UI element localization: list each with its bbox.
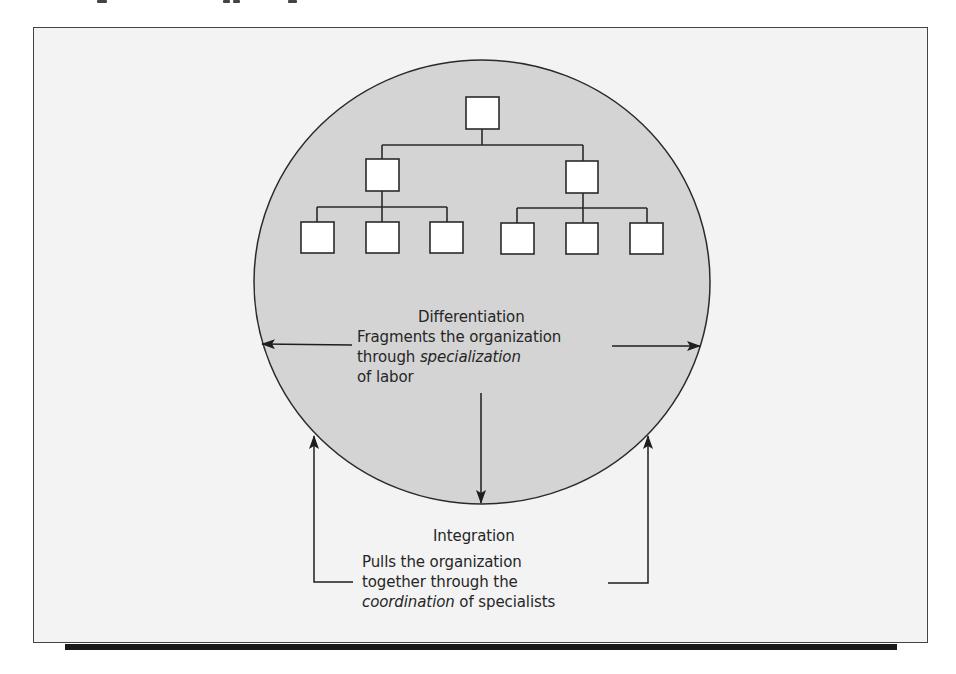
differentiation-line-1: Fragments the organization [357,327,561,347]
integration-line-1: Pulls the organization [362,552,522,572]
org-box-top [466,97,499,129]
integration-title: Integration [433,526,515,546]
integration-line-3: coordination of specialists [362,592,555,612]
org-box-bottom-1 [301,222,334,253]
org-box-middle-right [566,161,598,193]
coordination-emphasis: coordination [362,593,455,611]
differentiation-title: Differentiation [418,307,525,327]
org-box-bottom-2 [366,222,399,253]
org-box-bottom-4 [501,223,534,254]
org-box-bottom-5 [566,223,598,254]
integration-line-3-suffix: of specialists [455,593,556,611]
org-box-bottom-6 [630,223,663,254]
differentiation-line-3: of labor [357,367,414,387]
org-box-middle-left [366,159,399,191]
integration-line-2: together through the [362,572,518,592]
org-box-bottom-3 [430,222,463,253]
differentiation-line-2: through specialization [357,347,521,367]
arrow-left [262,344,352,345]
differentiation-line-2-prefix: through [357,348,420,366]
specialization-emphasis: specialization [420,348,521,366]
